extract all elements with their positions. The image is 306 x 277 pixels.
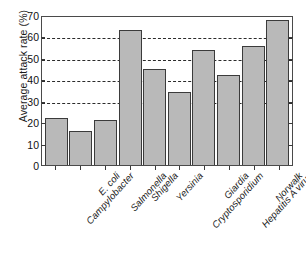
bar [69, 131, 92, 165]
x-axis-labels: CampylobacterE. coliSalmonellaShigellaYe… [41, 170, 293, 275]
bar [217, 75, 240, 165]
y-axis-tick-label: 40 [3, 75, 39, 86]
y-axis-tick-mark-right [288, 123, 293, 124]
y-axis-tick-mark-right [288, 102, 293, 103]
y-axis-tick-labels: 010203040506070 [0, 16, 39, 166]
bar [192, 50, 215, 165]
y-axis-tick-mark [41, 59, 45, 60]
y-axis-tick-mark [41, 37, 45, 38]
bar [266, 20, 289, 165]
y-axis-tick-label: 10 [3, 139, 39, 150]
y-axis-tick-label: 60 [3, 32, 39, 43]
plot-area [41, 16, 293, 166]
bar-chart: Average attack rate (%) 010203040506070 … [0, 0, 306, 277]
y-axis-tick-mark [41, 80, 45, 81]
y-axis-tick-label: 70 [3, 11, 39, 22]
bar [45, 118, 68, 165]
bar [143, 69, 166, 165]
y-axis-tick-label: 0 [3, 161, 39, 172]
y-axis-tick-mark [41, 123, 45, 124]
bars-container [42, 17, 292, 165]
bar [242, 46, 265, 165]
y-axis-tick-mark-right [288, 80, 293, 81]
y-axis-tick-mark [41, 102, 45, 103]
y-axis-tick-label: 50 [3, 54, 39, 65]
y-axis-tick-label: 20 [3, 118, 39, 129]
bar [94, 120, 117, 165]
bar [119, 30, 142, 165]
y-axis-tick-label: 30 [3, 96, 39, 107]
y-axis-tick-mark-right [288, 37, 293, 38]
y-axis-tick-mark-right [288, 59, 293, 60]
bar [168, 92, 191, 165]
y-axis-tick-mark [41, 145, 45, 146]
y-axis-tick-mark-right [288, 145, 293, 146]
